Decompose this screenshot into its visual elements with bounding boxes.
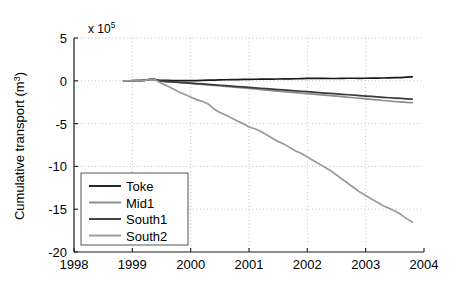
x-tick-label: 2003	[351, 257, 380, 272]
x-tick-label: 1999	[118, 257, 147, 272]
x-tick-label: 2001	[235, 257, 264, 272]
y-axis-label: Cumulative transport (m3)	[12, 72, 27, 220]
legend: TokeMid1South1South2	[81, 173, 188, 245]
figure-container: 1998199920002001200220032004 50-5-10-15-…	[0, 0, 463, 290]
y-tick-label: -20	[48, 245, 67, 260]
chart-canvas: 1998199920002001200220032004 50-5-10-15-…	[0, 0, 463, 290]
chart-background	[0, 0, 463, 290]
cumulative-transport-line-chart: 1998199920002001200220032004 50-5-10-15-…	[0, 0, 463, 290]
y-tick-label: 0	[60, 74, 67, 89]
legend-label-south2[interactable]: South2	[126, 229, 167, 244]
x-tick-label: 2002	[293, 257, 322, 272]
x-tick-label: 2004	[410, 257, 439, 272]
y-tick-label: -15	[48, 202, 67, 217]
legend-label-south1[interactable]: South1	[126, 212, 167, 227]
x-tick-label: 2000	[176, 257, 205, 272]
y-tick-label: 5	[60, 31, 67, 46]
legend-label-mid1[interactable]: Mid1	[126, 196, 154, 211]
legend-label-toke[interactable]: Toke	[126, 179, 153, 194]
y-tick-label: -10	[48, 159, 67, 174]
y-tick-label: -5	[55, 117, 67, 132]
